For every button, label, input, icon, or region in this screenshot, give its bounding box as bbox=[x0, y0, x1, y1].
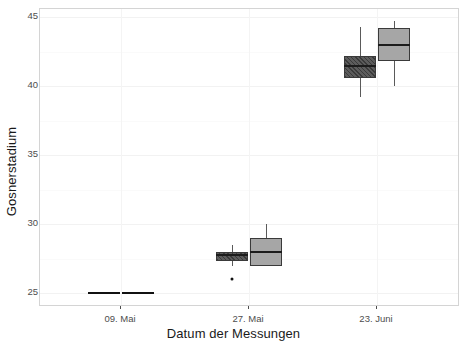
boxplot-whisker-lower bbox=[394, 61, 395, 86]
x-axis-tick-mark bbox=[248, 306, 249, 309]
boxplot-chart: Gosnerstadium 2530354045 09. Mai27. Mai2… bbox=[0, 0, 467, 343]
gridline-vertical-major bbox=[121, 9, 122, 305]
x-axis-tick-label: 27. Mai bbox=[232, 314, 263, 324]
y-axis-tick-label: 35 bbox=[14, 149, 38, 159]
x-axis-title: Datum der Messungen bbox=[0, 326, 467, 341]
y-axis-tick-label: 30 bbox=[14, 218, 38, 228]
x-axis-tick-mark bbox=[376, 306, 377, 309]
boxplot-median-line bbox=[378, 44, 410, 46]
boxplot-median-line bbox=[250, 251, 282, 253]
x-axis-tick-label: 23. Juni bbox=[359, 314, 392, 324]
plot-panel bbox=[39, 8, 459, 306]
boxplot-whisker-lower bbox=[360, 78, 361, 97]
boxplot-whisker-upper bbox=[232, 245, 233, 252]
boxplot-median-line bbox=[216, 254, 248, 256]
boxplot-degenerate-line bbox=[88, 292, 120, 294]
boxplot-iqr-box bbox=[344, 56, 376, 78]
y-axis-tick-label: 45 bbox=[14, 12, 38, 22]
boxplot-whisker-lower bbox=[232, 261, 233, 265]
boxplot-degenerate-line bbox=[122, 292, 154, 294]
boxplot-whisker-upper bbox=[394, 21, 395, 28]
y-axis-tick-group: 2530354045 bbox=[0, 0, 38, 343]
boxplot-outlier-point bbox=[231, 278, 234, 281]
boxplot-median-line bbox=[344, 65, 376, 67]
x-axis-tick-mark bbox=[120, 306, 121, 309]
x-axis-tick-label: 09. Mai bbox=[104, 314, 135, 324]
y-axis-tick-label: 25 bbox=[14, 287, 38, 297]
y-axis-tick-label: 40 bbox=[14, 81, 38, 91]
boxplot-whisker-upper bbox=[360, 27, 361, 56]
boxplot-whisker-upper bbox=[266, 224, 267, 238]
